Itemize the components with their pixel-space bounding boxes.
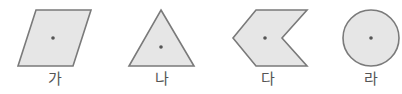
shape-label-ga: 가 xyxy=(48,70,62,88)
shape-label-na: 나 xyxy=(155,70,169,88)
chevron-shape xyxy=(233,10,307,66)
triangle-shape xyxy=(129,10,194,66)
shapes-figure: 가 나 다 라 xyxy=(0,0,402,94)
center-dot xyxy=(369,36,373,40)
center-dot xyxy=(51,36,55,40)
shape-label-ra: 라 xyxy=(364,70,378,88)
shape-label-da: 다 xyxy=(261,70,275,88)
center-dot xyxy=(263,36,267,40)
center-dot xyxy=(159,45,163,49)
